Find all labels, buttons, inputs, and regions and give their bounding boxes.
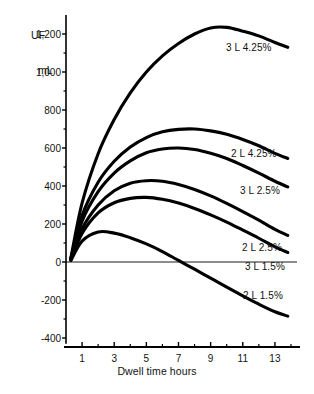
series-label-0: 3 L 4.25%	[226, 42, 272, 53]
ultrafiltration-chart: UF mL -400-20002004006008001,0001,200 13…	[0, 0, 314, 394]
y-tick-label: -400	[18, 333, 61, 344]
x-tick-label: 13	[269, 353, 280, 364]
x-tick-label: 1	[79, 353, 85, 364]
y-tick-label: 600	[18, 143, 61, 154]
y-tick-label: 800	[18, 105, 61, 116]
y-tick-label: 1,000	[18, 67, 61, 78]
y-tick-label: 400	[18, 181, 61, 192]
series-label-1: 2 L 4.25%	[231, 148, 277, 159]
series-label-3: 2 L 2.5%	[242, 242, 282, 253]
series-label-4: 3 L 1.5%	[245, 261, 285, 272]
y-tick-label: 1,200	[18, 29, 61, 40]
y-tick-label: 0	[18, 257, 61, 268]
y-tick-label: 200	[18, 219, 61, 230]
x-tick-label: 5	[144, 353, 150, 364]
series-label-5: 2 L 1.5%	[243, 290, 283, 301]
series-curves	[71, 27, 288, 316]
x-axis-title: Dwell time hours	[0, 366, 314, 378]
x-tick-label: 9	[208, 353, 214, 364]
x-tick-label: 7	[176, 353, 182, 364]
series-label-2: 3 L 2.5%	[240, 185, 280, 196]
y-tick-label: -200	[18, 295, 61, 306]
x-tick-label: 11	[238, 353, 248, 364]
x-tick-label: 3	[111, 353, 117, 364]
